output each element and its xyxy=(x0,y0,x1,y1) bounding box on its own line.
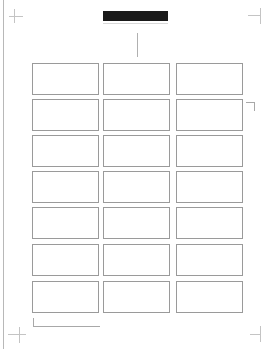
label-cell-r1-c3 xyxy=(176,63,243,95)
label-cell-r4-c1 xyxy=(32,171,99,203)
label-cell-r6-c2 xyxy=(103,244,170,276)
header-black-bar xyxy=(103,11,168,21)
label-cell-r7-c3 xyxy=(176,281,243,313)
center-alignment-tick xyxy=(137,33,138,57)
label-cell-r7-c2 xyxy=(103,281,170,313)
label-cell-r4-c3 xyxy=(176,171,243,203)
label-cell-r6-c1 xyxy=(32,244,99,276)
page-left-edge-line xyxy=(3,0,4,349)
header-underline xyxy=(103,23,168,24)
label-cell-r3-c2 xyxy=(103,135,170,167)
label-cell-r5-c3 xyxy=(176,207,243,239)
label-cell-r3-c1 xyxy=(32,135,99,167)
label-cell-r6-c3 xyxy=(176,244,243,276)
label-cell-r5-c1 xyxy=(32,207,99,239)
label-cell-r2-c2 xyxy=(103,99,170,131)
label-cell-r2-c1 xyxy=(32,99,99,131)
label-cell-r1-c1 xyxy=(32,63,99,95)
label-cell-r1-c2 xyxy=(103,63,170,95)
label-cell-r5-c2 xyxy=(103,207,170,239)
label-cell-r7-c1 xyxy=(32,281,99,313)
label-cell-r4-c2 xyxy=(103,171,170,203)
label-cell-r3-c3 xyxy=(176,135,243,167)
label-cell-r2-c3 xyxy=(176,99,243,131)
